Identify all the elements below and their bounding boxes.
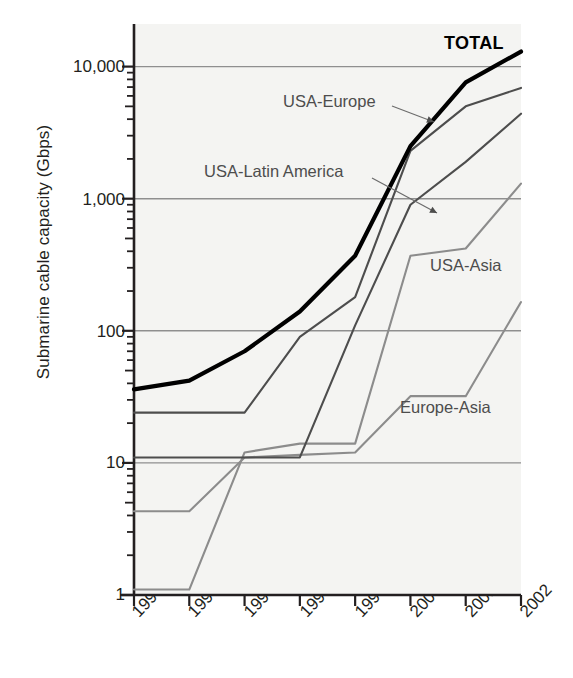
series-label-usa-europe: USA-Europe <box>283 92 376 111</box>
series-label-europe-asia: Europe-Asia <box>400 398 491 417</box>
chart-figure: Submarine cable capacity (Gbps) 10,000 1… <box>0 0 573 678</box>
series-label-usa-asia: USA-Asia <box>430 256 502 275</box>
series-label-usa-latin-america: USA-Latin America <box>204 162 343 181</box>
series-label-total: TOTAL <box>444 33 504 54</box>
